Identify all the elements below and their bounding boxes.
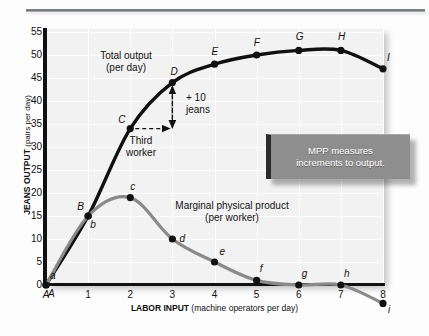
data-point-label: C <box>118 115 125 125</box>
data-point-marker <box>379 300 386 307</box>
data-point-label: e <box>220 247 226 257</box>
data-point-marker <box>127 125 134 132</box>
data-point-label: G <box>296 32 304 42</box>
data-point-marker <box>211 61 218 68</box>
data-point-label: I <box>387 53 390 63</box>
data-point-label: a <box>50 271 56 281</box>
data-point-marker <box>337 281 344 288</box>
data-point-marker <box>253 277 260 284</box>
callout-text: MPP measures increments to output. <box>296 145 385 169</box>
total-output-annotation: Total output (per day) <box>78 50 174 74</box>
data-point-label: h <box>344 269 350 279</box>
data-point-marker <box>253 51 260 58</box>
data-point-marker <box>379 65 386 72</box>
total-output-annotation-line2: (per day) <box>78 62 174 74</box>
mpp-annotation-line1: Marginal physical product <box>152 200 312 212</box>
data-point-marker <box>295 281 302 288</box>
total-output-annotation-line1: Total output <box>78 50 174 62</box>
third-worker-annotation-line1: Third <box>112 135 170 147</box>
mpp-annotation-line2: (per worker) <box>152 212 312 224</box>
callout-line1: MPP measures <box>296 145 385 157</box>
data-point-label: g <box>302 269 308 279</box>
data-point-label: H <box>338 32 345 42</box>
data-point-label: i <box>388 305 390 315</box>
data-point-label: B <box>77 202 84 212</box>
data-point-label: f <box>260 264 263 274</box>
increment-annotation-line1: + 10 <box>186 92 210 104</box>
data-point-label: A <box>48 289 55 299</box>
mpp-annotation: Marginal physical product (per worker) <box>152 200 312 224</box>
data-point-label: c <box>130 182 135 192</box>
callout-line2: increments to output. <box>296 157 385 169</box>
data-point-marker <box>127 194 134 201</box>
figure-container: 5550454035302520151050 A12345678 JEANS O… <box>0 0 429 336</box>
data-point-marker <box>295 47 302 54</box>
data-point-label: d <box>179 234 185 244</box>
data-point-label: b <box>90 220 96 230</box>
data-point-marker <box>211 258 218 265</box>
data-point-marker <box>337 47 344 54</box>
third-worker-annotation: Third worker <box>112 135 170 159</box>
third-worker-annotation-line2: worker <box>112 147 170 159</box>
data-point-label: F <box>254 38 260 48</box>
data-point-marker <box>169 79 176 86</box>
increment-annotation-line2: jeans <box>186 104 210 116</box>
data-point-marker <box>169 235 176 242</box>
increment-annotation: + 10 jeans <box>186 92 210 116</box>
data-point-label: E <box>212 47 219 57</box>
callout-box: MPP measures increments to output. <box>266 134 410 179</box>
